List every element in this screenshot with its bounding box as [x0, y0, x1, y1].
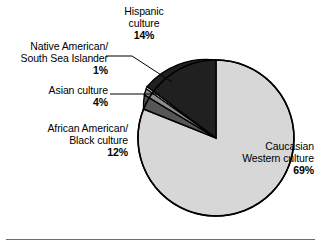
- slice-label-native-american-line2: South Sea Islander: [4, 52, 108, 64]
- slice-value-asian: 4%: [14, 96, 108, 108]
- slice-label-asian: Asian culture 4%: [14, 84, 108, 108]
- slice-value-caucasian: 69%: [222, 164, 314, 176]
- slice-value-african-american: 12%: [18, 146, 128, 158]
- slice-label-african-american-line2: Black culture: [18, 134, 128, 146]
- slice-label-caucasian: Caucasian Western culture 69%: [222, 140, 314, 177]
- slice-label-asian-line1: Asian culture: [14, 84, 108, 96]
- slice-label-caucasian-line2: Western culture: [222, 152, 314, 164]
- slice-label-hispanic: Hispanic culture 14%: [106, 5, 182, 42]
- slice-value-native-american: 1%: [4, 64, 108, 76]
- slice-label-caucasian-line1: Caucasian: [222, 140, 314, 152]
- slice-label-hispanic-line1: Hispanic: [106, 5, 182, 17]
- slice-label-native-american-line1: Native American/: [4, 40, 108, 52]
- footer-rule: [6, 239, 315, 240]
- slice-value-hispanic: 14%: [106, 29, 182, 41]
- slice-label-african-american-line1: African American/: [18, 122, 128, 134]
- pie-chart-figure: Hispanic culture 14% Native American/ So…: [0, 0, 321, 249]
- slice-label-native-american: Native American/ South Sea Islander 1%: [4, 40, 108, 77]
- slice-label-hispanic-line2: culture: [106, 17, 182, 29]
- slice-label-african-american: African American/ Black culture 12%: [18, 122, 128, 159]
